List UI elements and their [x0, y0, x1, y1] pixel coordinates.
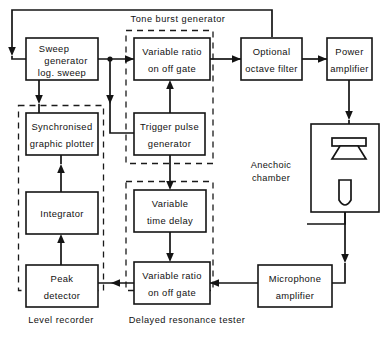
block-variable-time-delay-line-2: time delay: [147, 215, 193, 226]
block-variable-ratio-gate-bottom[interactable]: Variable ratio on off gate: [134, 262, 210, 304]
wire-into-microphone-amplifier: [332, 263, 345, 283]
block-optional-octave-filter[interactable]: Optional octave filter: [241, 38, 302, 80]
wire-sweep-branch-to-trigger: [110, 112, 134, 133]
block-variable-time-delay[interactable]: Variable time delay: [134, 190, 206, 232]
arrowhead-plotter-branch-down: [35, 95, 43, 104]
arrowhead-into-gate-bottom: [166, 253, 174, 262]
arrowhead-into-graphic-plotter-bottom: [57, 164, 65, 173]
block-variable-ratio-gate-top-line-1: Variable ratio: [142, 46, 201, 57]
arrowhead-feedback-into-sweep: [8, 47, 16, 56]
block-power-amplifier[interactable]: Power amplifier: [327, 38, 372, 80]
diagram-canvas: Sweep generator log. sweep Variable rati…: [0, 0, 382, 342]
block-microphone-amplifier-line-1: Microphone: [269, 273, 322, 284]
arrowhead-into-octave-filter: [232, 55, 241, 63]
block-synchronised-graphic-plotter-line-2: graphic plotter: [30, 138, 95, 149]
block-peak-detector[interactable]: Peak detector: [26, 265, 98, 307]
block-peak-detector-line-2: detector: [44, 290, 81, 301]
arrowhead-sweep-branch-down: [106, 95, 114, 104]
block-variable-time-delay-line-1: Variable: [152, 198, 189, 209]
group-label-tone-burst-generator: Tone burst generator: [131, 14, 226, 24]
area-label-anechoic-chamber-line-2: chamber: [252, 173, 290, 183]
arrowhead-toward-peak-detector: [111, 279, 120, 287]
arrowhead-into-gate-bottom-left: [210, 279, 219, 287]
block-variable-ratio-gate-bottom-line-2: on off gate: [148, 287, 196, 298]
block-sweep-generator[interactable]: Sweep generator log. sweep: [26, 38, 98, 80]
arrowhead-into-variable-ratio-gate-top: [125, 55, 134, 63]
group-label-delayed-resonance-tester: Delayed resonance tester: [129, 315, 246, 325]
arrowhead-into-power-amplifier: [318, 55, 327, 63]
block-trigger-pulse-generator-line-1: Trigger pulse: [140, 121, 199, 132]
block-power-amplifier-line-1: Power: [335, 46, 363, 57]
block-optional-octave-filter-line-2: octave filter: [245, 63, 298, 74]
block-peak-detector-line-1: Peak: [51, 273, 74, 284]
microphone-symbol: [339, 180, 351, 205]
wire-feedback-into-sweep-left: [12, 56, 26, 59]
block-synchronised-graphic-plotter-line-1: Synchronised: [31, 121, 92, 132]
block-power-amplifier-line-2: amplifier: [330, 63, 369, 74]
block-trigger-pulse-generator[interactable]: Trigger pulse generator: [134, 113, 205, 155]
group-label-level-recorder: Level recorder: [28, 315, 94, 325]
block-diagram: Sweep generator log. sweep Variable rati…: [0, 0, 382, 342]
area-label-anechoic-chamber-line-1: Anechoic: [251, 160, 292, 170]
block-variable-ratio-gate-top[interactable]: Variable ratio on off gate: [134, 38, 210, 80]
block-optional-octave-filter-line-1: Optional: [253, 46, 291, 57]
block-microphone-amplifier-line-2: amplifier: [276, 290, 315, 301]
block-variable-ratio-gate-bottom-line-1: Variable ratio: [142, 270, 201, 281]
arrowhead-into-gate-from-trigger: [166, 80, 174, 89]
block-sweep-generator-line-2: generator: [44, 55, 87, 66]
arrowhead-into-variable-time-delay: [166, 181, 174, 190]
block-sweep-generator-line-1: Sweep: [39, 43, 69, 54]
block-trigger-pulse-generator-line-2: generator: [148, 138, 191, 149]
arrowhead-toward-microphone-amplifier: [341, 254, 349, 263]
block-variable-ratio-gate-top-line-2: on off gate: [148, 63, 196, 74]
arrowhead-into-anechoic-chamber: [345, 111, 353, 120]
block-sweep-generator-line-3: log. sweep: [38, 67, 86, 78]
block-microphone-amplifier[interactable]: Microphone amplifier: [258, 265, 332, 307]
block-synchronised-graphic-plotter[interactable]: Synchronised graphic plotter: [26, 113, 98, 155]
arrowhead-into-integrator: [57, 234, 65, 243]
block-integrator-line-1: Integrator: [40, 208, 84, 219]
block-integrator[interactable]: Integrator: [26, 192, 98, 234]
